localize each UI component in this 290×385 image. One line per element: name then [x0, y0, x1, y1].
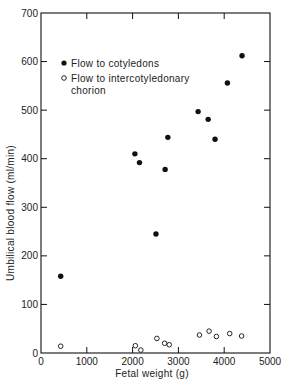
chorion-flow-point	[167, 342, 172, 347]
cotyledon-flow-point	[137, 160, 142, 165]
chorion-flow-point	[155, 336, 160, 341]
cotyledon-flow-point	[195, 109, 200, 114]
y-tick-label: 200	[21, 250, 38, 261]
y-tick-label: 100	[21, 299, 38, 310]
cotyledon-flow-point	[212, 137, 217, 142]
cotyledon-flow-point	[132, 151, 137, 156]
open-circle-legend-icon	[62, 76, 67, 81]
legend-label-cotyledons: Flow to cotyledons	[71, 58, 159, 69]
cotyledon-flow-point	[58, 274, 63, 279]
filled-circle-legend-icon	[61, 60, 66, 65]
y-tick-label: 300	[21, 202, 38, 213]
legend-label-intercotyledonary: Flow to intercotyledonary	[71, 73, 190, 84]
legend: Flow to cotyledons Flow to intercotyledo…	[61, 58, 189, 97]
x-axis-title: Fetal weight (g)	[115, 368, 189, 379]
x-tick-label: 4000	[213, 356, 236, 367]
y-axis-title: Umbilical blood flow (ml/min)	[5, 145, 16, 281]
chorion-flow-point	[133, 343, 138, 348]
scatter-chart: 0100020003000400050000100200300400500600…	[0, 0, 290, 385]
x-tick-label: 1000	[76, 356, 99, 367]
cotyledon-flow-point	[165, 135, 170, 140]
chorion-flow-point	[239, 334, 244, 339]
x-tick-label: 3000	[167, 356, 190, 367]
x-tick-label: 2000	[121, 356, 144, 367]
y-tick-label: 0	[32, 348, 38, 359]
chorion-flow-point	[227, 331, 232, 336]
data-points	[58, 53, 245, 352]
chorion-flow-point	[197, 333, 202, 338]
x-tick-label: 5000	[259, 356, 282, 367]
chorion-flow-point	[58, 344, 63, 349]
chorion-flow-point	[207, 329, 212, 334]
legend-label-chorion: chorion	[71, 85, 106, 96]
cotyledon-flow-point	[153, 231, 158, 236]
cotyledon-flow-point	[162, 167, 167, 172]
y-tick-label: 700	[21, 8, 38, 19]
cotyledon-flow-point	[239, 53, 244, 58]
y-tick-label: 600	[21, 56, 38, 67]
cotyledon-flow-point	[205, 117, 210, 122]
x-tick-label: 0	[38, 356, 44, 367]
y-tick-label: 500	[21, 105, 38, 116]
chorion-flow-point	[139, 348, 144, 353]
cotyledon-flow-point	[225, 80, 230, 85]
chorion-flow-point	[162, 341, 167, 346]
y-tick-label: 400	[21, 153, 38, 164]
chorion-flow-point	[214, 334, 219, 339]
